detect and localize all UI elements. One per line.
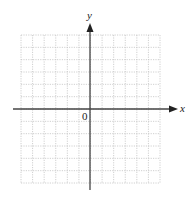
y-axis-label: y xyxy=(87,10,92,21)
y-axis-arrow-icon xyxy=(87,23,94,32)
coordinate-plane xyxy=(0,0,190,198)
x-axis-label: x xyxy=(180,103,185,114)
origin-label: 0 xyxy=(82,111,88,122)
x-axis-arrow-icon xyxy=(169,106,178,113)
